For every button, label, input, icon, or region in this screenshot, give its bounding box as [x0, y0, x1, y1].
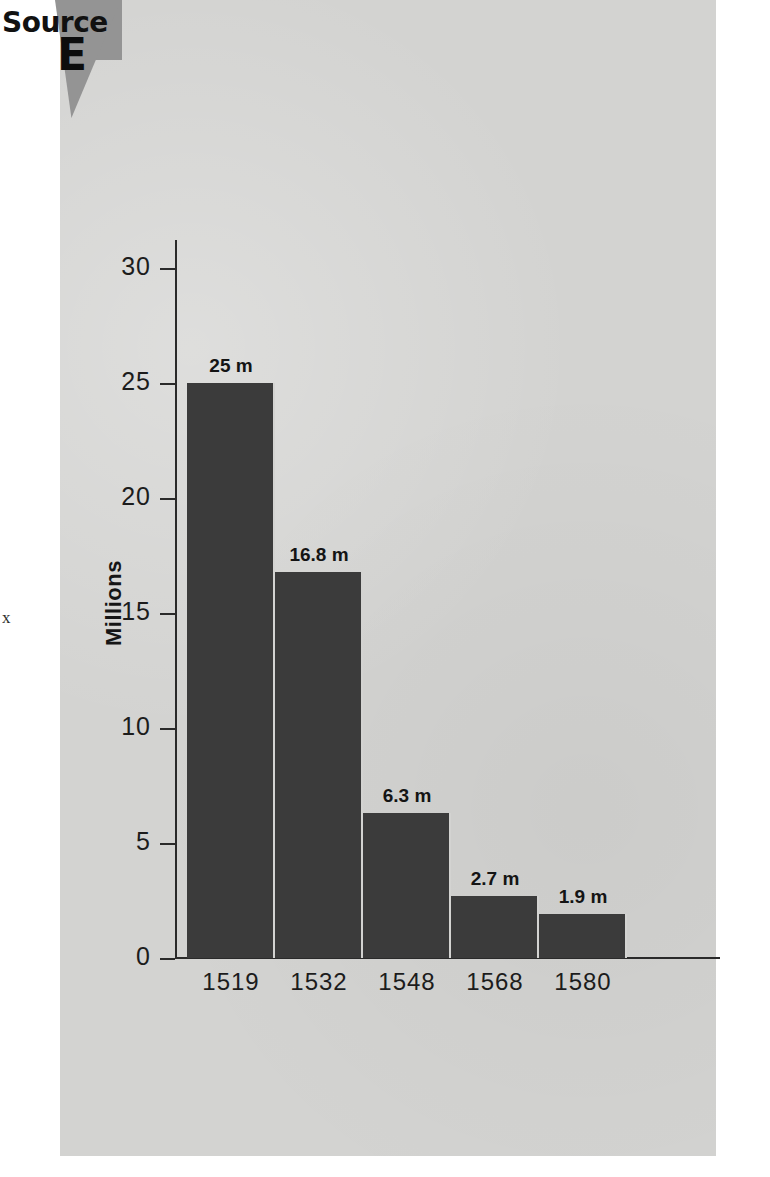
y-axis-line [175, 240, 177, 959]
bar-value-label-1519: 25 m [177, 355, 285, 377]
y-tick-label: 15 [95, 597, 151, 626]
y-tick-mark [160, 728, 175, 730]
source-badge: Source E [0, 0, 175, 135]
x-axis-label-1532: 1532 [275, 968, 363, 996]
page-edge-artifact: x [2, 608, 13, 628]
y-tick-mark [160, 498, 175, 500]
y-tick-mark [160, 843, 175, 845]
bar-value-label-1580: 1.9 m [529, 886, 637, 908]
y-tick-mark [160, 383, 175, 385]
x-axis-label-1568: 1568 [451, 968, 539, 996]
source-label: Source [2, 6, 108, 39]
y-tick-label: 30 [95, 252, 151, 281]
x-axis-label-1580: 1580 [539, 968, 627, 996]
y-tick-label: 10 [95, 712, 151, 741]
bar-1568 [451, 896, 539, 958]
bar-1580 [539, 914, 627, 958]
bar-chart: Millions 051015202530 25 m16.8 m6.3 m2.7… [60, 0, 716, 1156]
x-axis-label-1548: 1548 [363, 968, 451, 996]
source-letter: E [57, 33, 87, 77]
y-tick-label: 25 [95, 367, 151, 396]
x-axis-label-1519: 1519 [187, 968, 275, 996]
y-tick-label: 20 [95, 482, 151, 511]
bar-1519 [187, 383, 275, 958]
bar-value-label-1548: 6.3 m [353, 785, 461, 807]
y-tick-label: 0 [95, 942, 151, 971]
bar-1532 [275, 572, 363, 958]
bar-value-label-1532: 16.8 m [265, 544, 373, 566]
y-tick-mark [160, 958, 175, 960]
bar-1548 [363, 813, 451, 958]
y-tick-mark [160, 268, 175, 270]
y-tick-label: 5 [95, 827, 151, 856]
y-tick-mark [160, 613, 175, 615]
